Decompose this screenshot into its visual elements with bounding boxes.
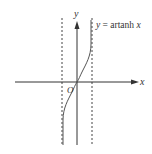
y-axis-arrow-icon <box>75 21 80 29</box>
curve-label: y = artanh x <box>95 20 141 30</box>
curve-label-eq: = artanh <box>100 20 136 30</box>
y-axis-label: y <box>73 8 79 19</box>
origin-label: O <box>67 85 74 95</box>
curve-label-var: x <box>135 20 141 30</box>
x-axis-arrow-icon <box>131 80 139 85</box>
artanh-graph: y x O y = artanh x <box>0 0 152 154</box>
x-axis-label: x <box>139 76 145 87</box>
